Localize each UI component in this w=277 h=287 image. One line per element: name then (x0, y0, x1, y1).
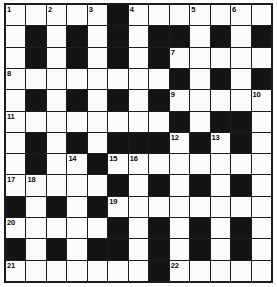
letter-square[interactable] (67, 112, 86, 132)
letter-square[interactable] (47, 218, 66, 238)
letter-square[interactable] (129, 218, 148, 238)
letter-square[interactable] (47, 175, 66, 195)
letter-square[interactable]: 18 (26, 175, 45, 195)
letter-square[interactable] (252, 5, 271, 25)
letter-square[interactable] (6, 90, 25, 110)
letter-square[interactable] (252, 133, 271, 153)
letter-square[interactable] (47, 261, 66, 281)
letter-square[interactable] (211, 261, 230, 281)
letter-square[interactable] (190, 69, 209, 89)
letter-square[interactable] (231, 154, 250, 174)
letter-square[interactable] (149, 197, 168, 217)
letter-square[interactable] (170, 197, 189, 217)
letter-square[interactable] (252, 48, 271, 68)
letter-square[interactable] (252, 239, 271, 259)
letter-square[interactable] (129, 197, 148, 217)
letter-square[interactable] (67, 5, 86, 25)
letter-square[interactable] (231, 197, 250, 217)
letter-square[interactable] (108, 261, 127, 281)
letter-square[interactable] (170, 175, 189, 195)
letter-square[interactable] (231, 90, 250, 110)
letter-square[interactable]: 4 (129, 5, 148, 25)
letter-square[interactable] (88, 261, 107, 281)
letter-square[interactable]: 17 (6, 175, 25, 195)
letter-square[interactable] (88, 90, 107, 110)
letter-square[interactable]: 21 (6, 261, 25, 281)
letter-square[interactable]: 3 (88, 5, 107, 25)
letter-square[interactable] (129, 69, 148, 89)
letter-square[interactable]: 7 (170, 48, 189, 68)
letter-square[interactable] (67, 261, 86, 281)
letter-square[interactable] (47, 26, 66, 46)
letter-square[interactable] (252, 197, 271, 217)
letter-square[interactable] (149, 154, 168, 174)
letter-square[interactable] (129, 239, 148, 259)
letter-square[interactable] (190, 48, 209, 68)
letter-square[interactable] (149, 5, 168, 25)
letter-square[interactable] (88, 69, 107, 89)
letter-square[interactable] (211, 218, 230, 238)
letter-square[interactable] (47, 112, 66, 132)
letter-square[interactable] (190, 154, 209, 174)
letter-square[interactable] (252, 175, 271, 195)
letter-square[interactable] (190, 197, 209, 217)
letter-square[interactable] (211, 154, 230, 174)
letter-square[interactable] (26, 112, 45, 132)
letter-square[interactable] (47, 48, 66, 68)
letter-square[interactable] (6, 133, 25, 153)
letter-square[interactable]: 8 (6, 69, 25, 89)
letter-square[interactable] (252, 218, 271, 238)
letter-square[interactable]: 22 (170, 261, 189, 281)
letter-square[interactable] (88, 133, 107, 153)
letter-square[interactable]: 1 (6, 5, 25, 25)
letter-square[interactable] (129, 26, 148, 46)
letter-square[interactable] (231, 48, 250, 68)
letter-square[interactable] (129, 90, 148, 110)
letter-square[interactable] (129, 112, 148, 132)
letter-square[interactable] (67, 197, 86, 217)
letter-square[interactable] (47, 154, 66, 174)
letter-square[interactable] (211, 48, 230, 68)
letter-square[interactable] (88, 48, 107, 68)
letter-square[interactable]: 11 (6, 112, 25, 132)
letter-square[interactable]: 15 (108, 154, 127, 174)
letter-square[interactable]: 16 (129, 154, 148, 174)
letter-square[interactable]: 14 (67, 154, 86, 174)
letter-square[interactable]: 9 (170, 90, 189, 110)
letter-square[interactable]: 12 (170, 133, 189, 153)
letter-square[interactable] (6, 154, 25, 174)
letter-square[interactable]: 13 (211, 133, 230, 153)
letter-square[interactable]: 20 (6, 218, 25, 238)
letter-square[interactable] (252, 112, 271, 132)
letter-square[interactable] (252, 261, 271, 281)
letter-square[interactable]: 6 (231, 5, 250, 25)
letter-square[interactable] (170, 218, 189, 238)
letter-square[interactable] (170, 5, 189, 25)
letter-square[interactable] (88, 175, 107, 195)
letter-square[interactable] (26, 5, 45, 25)
letter-square[interactable] (149, 112, 168, 132)
letter-square[interactable]: 10 (252, 90, 271, 110)
letter-square[interactable] (108, 112, 127, 132)
letter-square[interactable] (170, 239, 189, 259)
letter-square[interactable] (190, 112, 209, 132)
letter-square[interactable]: 19 (108, 197, 127, 217)
letter-square[interactable] (190, 90, 209, 110)
letter-square[interactable] (211, 175, 230, 195)
letter-square[interactable] (211, 5, 230, 25)
letter-square[interactable] (67, 218, 86, 238)
letter-square[interactable] (67, 175, 86, 195)
letter-square[interactable] (67, 239, 86, 259)
letter-square[interactable] (26, 218, 45, 238)
letter-square[interactable] (211, 239, 230, 259)
letter-square[interactable] (47, 69, 66, 89)
letter-square[interactable] (26, 261, 45, 281)
letter-square[interactable] (88, 218, 107, 238)
letter-square[interactable] (190, 26, 209, 46)
letter-square[interactable] (252, 154, 271, 174)
letter-square[interactable] (6, 48, 25, 68)
letter-square[interactable] (129, 261, 148, 281)
letter-square[interactable] (129, 175, 148, 195)
letter-square[interactable] (88, 26, 107, 46)
letter-square[interactable] (26, 69, 45, 89)
